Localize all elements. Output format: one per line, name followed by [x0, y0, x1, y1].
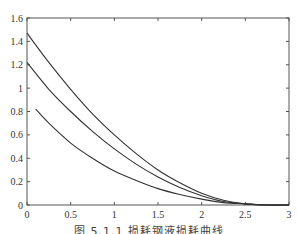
plot-lines — [27, 33, 289, 205]
y-tick-label: 0.2 — [11, 176, 24, 187]
y-tick-label: 0 — [18, 200, 23, 211]
series-line-curve-1 — [27, 33, 289, 205]
y-tick-label: 0.8 — [11, 106, 24, 117]
figure-caption: 图 5.1.1 损耗钢液损耗曲线 — [0, 222, 298, 234]
y-tick-label: 1.6 — [11, 13, 24, 24]
x-tick-label: 3 — [287, 209, 292, 220]
y-tick-label: 1 — [18, 83, 23, 94]
x-tick-label: 1 — [112, 209, 117, 220]
x-tick-label: 2 — [199, 209, 204, 220]
x-tick-label: 1.5 — [152, 209, 165, 220]
line-chart: 00.511.522.5300.20.40.60.811.21.41.6 — [0, 0, 298, 234]
y-tick-label: 1.4 — [11, 36, 24, 47]
x-tick-label: 0.5 — [64, 209, 77, 220]
x-tick-label: 0 — [25, 209, 30, 220]
series-line-curve-3 — [36, 109, 289, 205]
y-tick-label: 0.6 — [11, 129, 24, 140]
x-tick-label: 2.5 — [239, 209, 252, 220]
y-tick-label: 1.2 — [11, 59, 24, 70]
y-tick-label: 0.4 — [11, 153, 24, 164]
tick-labels: 00.511.522.5300.20.40.60.811.21.41.6 — [11, 13, 292, 221]
